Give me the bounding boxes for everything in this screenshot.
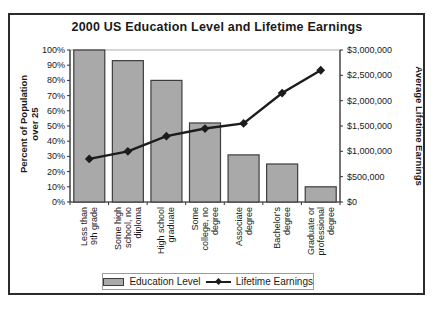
right-tick-label-1500000: $1,500,000 bbox=[347, 121, 392, 131]
legend-label-lifetime-earnings: Lifetime Earnings bbox=[236, 276, 313, 287]
diamond-marker-icon bbox=[215, 277, 222, 284]
bar-6 bbox=[305, 187, 336, 202]
x-axis-label-0: Less than9th grade bbox=[79, 207, 99, 246]
x-label-group-6: Graduate orprofessionaldegree bbox=[306, 207, 336, 256]
x-axis-label-3: Somecollege, nodegree bbox=[190, 207, 220, 251]
right-tick-label-500000: $500,000 bbox=[347, 172, 385, 182]
legend-label-education-level: Education Level bbox=[129, 276, 200, 287]
x-axis-label-5: Bachelor'sdegree bbox=[272, 207, 292, 249]
x-axis-label-1: Some highschool, nodiploma bbox=[113, 207, 143, 250]
left-tick-label-0: 0% bbox=[52, 197, 65, 207]
x-label-group-5: Bachelor'sdegree bbox=[272, 207, 292, 249]
left-tick-label-50: 50% bbox=[47, 121, 65, 131]
bar-series-swatch bbox=[103, 278, 124, 286]
bar-0 bbox=[74, 50, 105, 202]
x-axis-label-2: High schoolgraduate bbox=[156, 207, 176, 254]
x-label-group-3: Somecollege, nodegree bbox=[190, 207, 220, 251]
left-tick-label-20: 20% bbox=[47, 167, 65, 177]
left-tick-label-30: 30% bbox=[47, 151, 65, 161]
x-label-group-4: Associatedegree bbox=[234, 207, 254, 246]
x-label-group-1: Some highschool, nodiploma bbox=[113, 207, 143, 250]
x-label-group-2: High schoolgraduate bbox=[156, 207, 176, 254]
line-series-swatch bbox=[206, 281, 231, 283]
left-tick-label-60: 60% bbox=[47, 106, 65, 116]
left-tick-label-10: 10% bbox=[47, 182, 65, 192]
chart-figure: 2000 US Education Level and Lifetime Ear… bbox=[0, 0, 434, 312]
left-tick-label-100: 100% bbox=[42, 45, 65, 55]
bar-5 bbox=[267, 164, 298, 202]
left-tick-label-90: 90% bbox=[47, 60, 65, 70]
right-tick-label-2500000: $2,500,000 bbox=[347, 70, 392, 80]
bar-1 bbox=[112, 61, 143, 202]
legend: Education Level Lifetime Earnings bbox=[102, 273, 314, 290]
bar-3 bbox=[190, 123, 221, 202]
plot-area: 0%10%20%30%40%50%60%70%80%90%100%$0$500,… bbox=[0, 0, 434, 312]
right-tick-label-1000000: $1,000,000 bbox=[347, 146, 392, 156]
x-axis-label-4: Associatedegree bbox=[234, 207, 254, 246]
left-tick-label-80: 80% bbox=[47, 75, 65, 85]
right-tick-label-2000000: $2,000,000 bbox=[347, 96, 392, 106]
right-tick-label-0: $0 bbox=[347, 197, 357, 207]
left-tick-label-70: 70% bbox=[47, 91, 65, 101]
left-tick-label-40: 40% bbox=[47, 136, 65, 146]
x-label-group-0: Less than9th grade bbox=[79, 207, 99, 246]
bar-4 bbox=[228, 155, 259, 202]
x-axis-label-6: Graduate orprofessionaldegree bbox=[306, 207, 336, 256]
right-tick-label-3000000: $3,000,000 bbox=[347, 45, 392, 55]
